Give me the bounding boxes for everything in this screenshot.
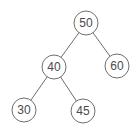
node-label: 50 [79, 16, 93, 30]
tree-node-60: 60 [105, 54, 129, 78]
binary-tree-diagram: 50 40 60 30 45 [0, 0, 139, 131]
tree-node-50: 50 [74, 11, 98, 35]
node-label: 30 [17, 103, 31, 117]
tree-node-30: 30 [12, 98, 36, 122]
node-label: 45 [76, 104, 90, 118]
node-label: 60 [110, 59, 124, 73]
tree-node-45: 45 [71, 99, 95, 123]
node-label: 40 [47, 60, 61, 74]
tree-node-40: 40 [42, 55, 66, 79]
